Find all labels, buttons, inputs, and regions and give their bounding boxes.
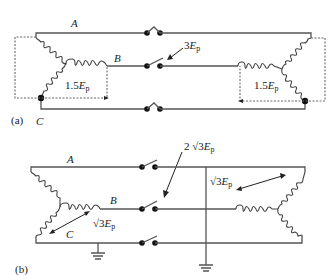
switch-voltage-label-a: 3Ep [184, 40, 200, 53]
left-voltage-label-a: 1.5Ep [65, 80, 89, 93]
phase-c-label-b: C [66, 229, 73, 240]
left-voltage-label-b: √3Ep [93, 218, 115, 231]
switch-a-phase-b[interactable] [144, 58, 163, 69]
switch-b-phase-b[interactable] [139, 201, 158, 212]
phase-a-label-b: A [67, 154, 74, 165]
panel-b [31, 152, 305, 271]
switches-b[interactable] [139, 152, 182, 246]
panel-a [15, 27, 325, 112]
switch-b-phase-a[interactable] [139, 160, 158, 170]
panel-a-label: (a) [11, 115, 23, 126]
phase-b-label-b: B [110, 195, 117, 206]
ground-icon-right [199, 265, 213, 271]
phase-c-label-a: C [36, 116, 43, 127]
switch-a-phase-a[interactable] [144, 27, 163, 36]
right-voltage-label-a: 1.5Ep [254, 80, 278, 93]
right-voltage-label-b: √3Ep [210, 176, 232, 189]
switch-a-phase-c[interactable] [144, 103, 163, 112]
ground-icon-left [91, 253, 105, 259]
phase-b-label-a: B [114, 53, 121, 64]
switch-voltage-label-b: 2 √3Ep [184, 141, 215, 154]
left-star-winding-a [15, 33, 146, 109]
panel-b-label: (b) [15, 264, 28, 275]
phase-a-label-a: A [71, 18, 78, 29]
switches-a[interactable] [144, 27, 183, 112]
switch-b-phase-c[interactable] [139, 236, 158, 246]
left-star-winding-b [31, 167, 141, 259]
